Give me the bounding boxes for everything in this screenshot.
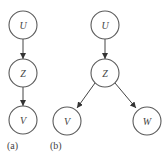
edge-b-z-v — [77, 83, 95, 108]
causal-diagram: U Z V (a) U Z V — [0, 0, 168, 159]
node-a-u-label: U — [19, 20, 27, 31]
node-b-v: V — [53, 107, 81, 135]
edge-b-z-w — [115, 83, 136, 108]
node-b-z: Z — [91, 59, 119, 87]
node-b-z-label: Z — [102, 68, 108, 79]
panel-a: U Z V (a) — [7, 11, 37, 152]
node-a-u: U — [9, 11, 37, 39]
node-a-v: V — [9, 106, 37, 134]
panel-a-caption: (a) — [7, 140, 18, 152]
node-a-z-label: Z — [20, 68, 26, 79]
panel-b: U Z V W (b) — [50, 11, 161, 152]
node-b-u: U — [91, 11, 119, 39]
node-b-w: W — [133, 107, 161, 135]
panel-b-caption: (b) — [50, 140, 62, 152]
node-a-z: Z — [9, 59, 37, 87]
node-b-u-label: U — [101, 20, 109, 31]
